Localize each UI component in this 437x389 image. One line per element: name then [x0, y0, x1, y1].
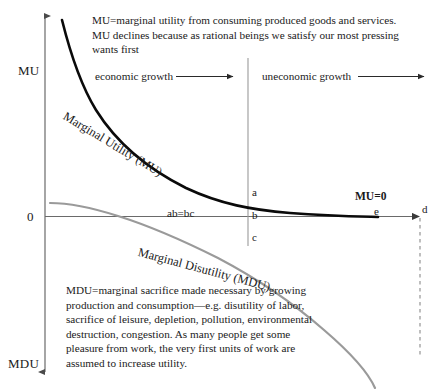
uneconomic-growth-label: uneconomic growth [262, 70, 351, 83]
origin-zero-label: 0 [27, 209, 34, 224]
mu-equals-zero-annotation: MU=0 [355, 190, 386, 204]
y-axis-mdu-label: MDU [8, 356, 39, 371]
economics-diagram-figure: MU 0 MDU MU=marginal utility from consum… [0, 0, 437, 389]
mdu-definition-note: MDU=marginal sacrifice made necessary by… [66, 283, 366, 370]
mu-definition-note: MU=marginal utility from consuming produ… [92, 13, 428, 57]
point-label-d: d [422, 203, 428, 216]
point-label-c: c [252, 231, 257, 244]
y-axis-mu-label: MU [18, 63, 40, 78]
economic-growth-label: economic growth [95, 70, 173, 83]
ab-equals-bc-annotation: ab=bc [167, 207, 194, 220]
point-label-e: e [374, 205, 379, 218]
point-label-b: b [252, 209, 258, 222]
point-label-a: a [252, 186, 257, 199]
